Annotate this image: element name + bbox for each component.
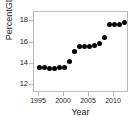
y-tick-label: 18: [10, 16, 28, 24]
x-tick-mark: [38, 92, 39, 96]
data-point: [107, 22, 112, 27]
data-points-layer: [34, 12, 127, 91]
plot-area: [33, 11, 128, 92]
data-point: [72, 49, 77, 54]
data-point: [67, 59, 72, 64]
x-tick-label: 2010: [98, 97, 128, 104]
x-axis-title: Year: [33, 107, 128, 117]
data-point: [77, 44, 82, 49]
data-point: [87, 44, 92, 49]
data-point: [92, 43, 97, 48]
data-point: [52, 66, 57, 71]
data-point: [82, 44, 87, 49]
data-point: [37, 65, 42, 70]
x-tick-mark: [88, 92, 89, 96]
chart-figure: PercentGDP 12141618 1995200020052010 Yea…: [0, 0, 134, 124]
data-point: [122, 20, 127, 25]
data-point: [112, 22, 117, 27]
y-axis-title: PercentGDP: [4, 0, 14, 57]
data-point: [42, 65, 47, 70]
x-tick-mark: [113, 92, 114, 96]
data-point: [47, 66, 52, 71]
data-point: [102, 35, 107, 40]
data-point: [62, 65, 67, 70]
x-tick-mark: [63, 92, 64, 96]
data-point: [117, 22, 122, 27]
data-point: [97, 41, 102, 46]
y-tick-label: 16: [10, 38, 28, 46]
data-point: [57, 65, 62, 70]
y-tick-label: 14: [10, 59, 28, 67]
y-tick-label: 12: [10, 80, 28, 88]
